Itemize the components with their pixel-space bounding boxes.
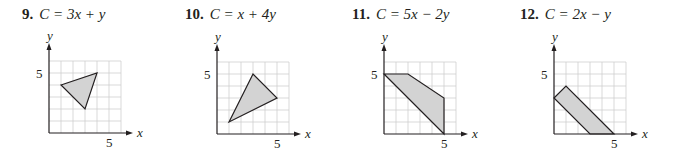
y-axis-arrow-icon	[47, 43, 52, 50]
y-axis-label: y	[380, 29, 388, 44]
feasible-region	[384, 74, 444, 134]
x-tick-label: 5	[611, 136, 618, 151]
y-axis-label: y	[213, 29, 221, 44]
problem-11: 11.C = 5x − 2y yx55	[336, 0, 504, 156]
x-tick-label: 5	[441, 136, 448, 151]
problem-10: 10.C = x + 4y yx55	[168, 0, 336, 156]
problem-12: 12.C = 2x − y yx55	[504, 0, 672, 156]
feasible-region	[61, 73, 97, 109]
y-tick-label: 5	[36, 66, 43, 81]
y-tick-label: 5	[541, 67, 548, 82]
x-tick-label: 5	[274, 136, 281, 151]
x-axis-label: x	[471, 126, 478, 141]
x-axis-label: x	[304, 126, 311, 141]
y-tick-label: 5	[204, 67, 211, 82]
y-axis-label: y	[550, 29, 558, 44]
feasible-region-graph: yx55	[0, 0, 168, 156]
x-tick-label: 5	[106, 135, 113, 150]
y-axis-arrow-icon	[215, 44, 220, 51]
x-axis-arrow-icon	[461, 132, 468, 137]
y-tick-label: 5	[371, 67, 378, 82]
x-axis-arrow-icon	[294, 132, 301, 137]
feasible-region-graph: yx55	[504, 0, 672, 156]
y-axis-arrow-icon	[382, 44, 387, 51]
x-axis-label: x	[136, 125, 143, 140]
y-axis-arrow-icon	[552, 44, 557, 51]
x-axis-arrow-icon	[631, 132, 638, 137]
problem-9: 9.C = 3x + y yx55	[0, 0, 168, 156]
x-axis-label: x	[641, 126, 648, 141]
feasible-region-graph: yx55	[336, 0, 504, 156]
feasible-region-graph: yx55	[168, 0, 336, 156]
x-axis-arrow-icon	[126, 131, 133, 136]
y-axis-label: y	[45, 28, 53, 43]
